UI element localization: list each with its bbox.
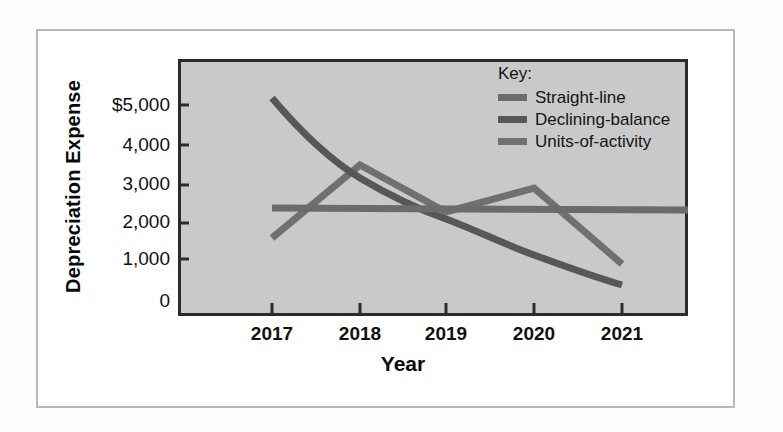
y-tick-label-5000: $5,000 bbox=[112, 94, 170, 116]
x-tick-label-2018: 2018 bbox=[320, 323, 400, 345]
legend-label-units-of-activity: Units-of-activity bbox=[535, 132, 651, 152]
y-axis-tick-labels: $5,000 4,000 3,000 2,000 1,000 0 bbox=[86, 0, 170, 432]
y-axis-title: Depreciation Expense bbox=[62, 72, 85, 302]
chart-legend: Key: Straight-line Declining-balance Uni… bbox=[498, 64, 683, 153]
legend-swatch-straight-line bbox=[498, 94, 527, 101]
y-tick-label-2000: 2,000 bbox=[122, 211, 170, 233]
y-tick-label-0: 0 bbox=[159, 290, 170, 312]
legend-swatch-declining-balance bbox=[498, 116, 527, 123]
x-tick-label-2019: 2019 bbox=[406, 323, 486, 345]
y-tick-label-4000: 4,000 bbox=[122, 134, 170, 156]
x-axis-title: Year bbox=[343, 352, 463, 376]
legend-item-declining-balance: Declining-balance bbox=[498, 109, 683, 130]
y-tick-marks bbox=[178, 105, 189, 259]
x-tick-label-2017: 2017 bbox=[232, 323, 312, 345]
legend-item-units-of-activity: Units-of-activity bbox=[498, 131, 683, 152]
legend-swatch-units-of-activity bbox=[498, 138, 527, 145]
series-line-units-of-activity bbox=[272, 165, 622, 264]
legend-item-straight-line: Straight-line bbox=[498, 87, 683, 108]
chart-figure: Depreciation Expense $5,000 4,000 3,000 … bbox=[0, 0, 783, 432]
legend-label-straight-line: Straight-line bbox=[535, 88, 626, 108]
legend-label-declining-balance: Declining-balance bbox=[535, 110, 670, 130]
legend-title: Key: bbox=[498, 64, 683, 84]
x-tick-label-2021: 2021 bbox=[582, 323, 662, 345]
series-line-straight-line bbox=[272, 208, 688, 210]
x-tick-marks bbox=[272, 303, 622, 316]
x-tick-label-2020: 2020 bbox=[494, 323, 574, 345]
y-tick-label-3000: 3,000 bbox=[122, 173, 170, 195]
y-tick-label-1000: 1,000 bbox=[122, 248, 170, 270]
